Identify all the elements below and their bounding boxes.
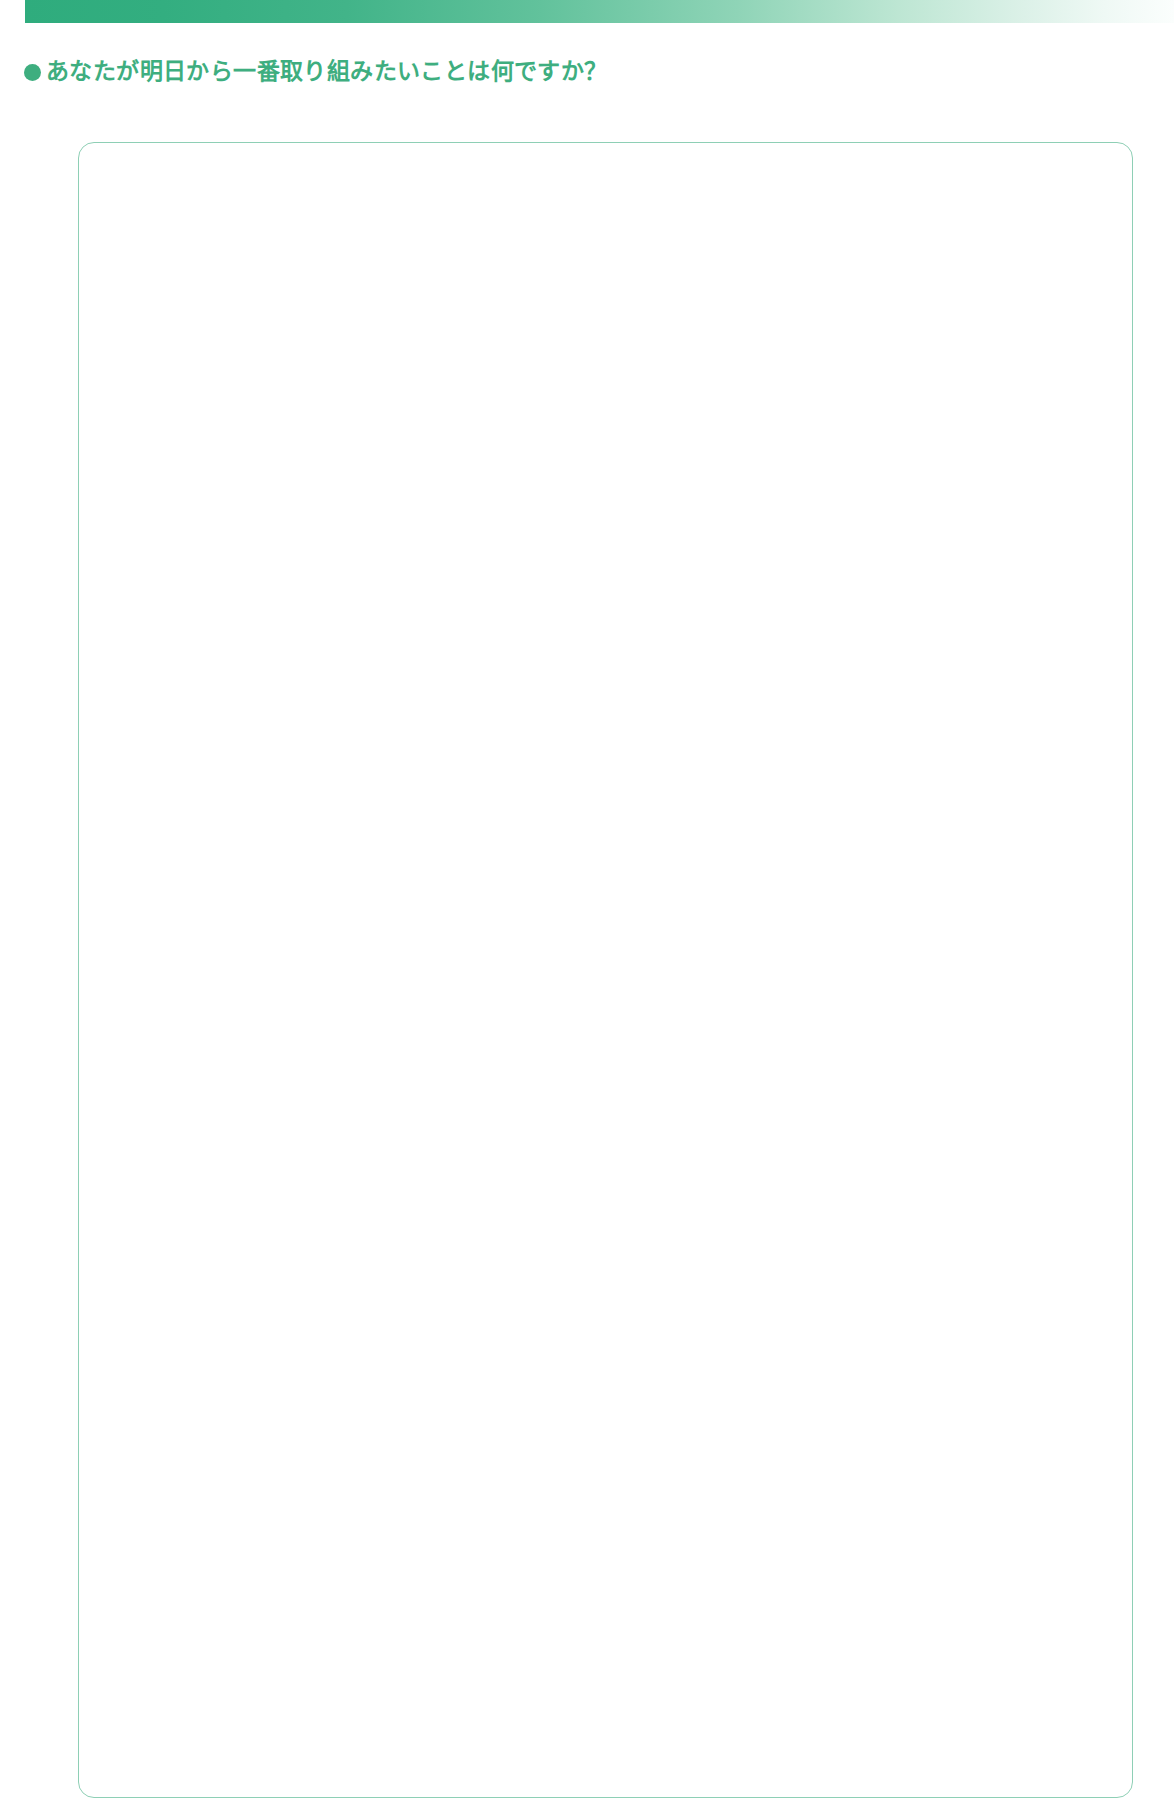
- answer-box[interactable]: [78, 142, 1133, 1798]
- answer-input[interactable]: [79, 143, 1132, 1797]
- question-text: あなたが明日から一番取り組みたいことは何ですか？: [46, 56, 608, 86]
- bullet-icon: [24, 64, 41, 81]
- top-gradient-bar: [25, 0, 1174, 23]
- question-heading: あなたが明日から一番取り組みたいことは何ですか？: [24, 56, 608, 86]
